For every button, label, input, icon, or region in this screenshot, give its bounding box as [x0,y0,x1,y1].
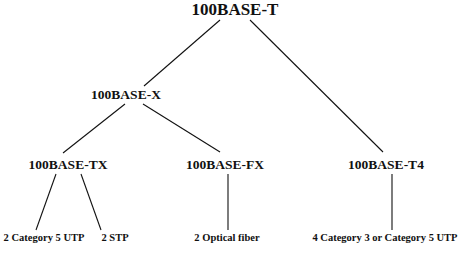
leaf-2-optical-fiber: 2 Optical fiber [194,232,259,243]
leaf-2-stp: 2 STP [101,232,128,243]
ethernet-standards-tree: 100BASE-T 100BASE-X 100BASE-TX 100BASE-F… [0,0,460,255]
edge-root-to-x [144,20,220,86]
node-100base-t4: 100BASE-T4 [348,157,424,173]
node-100base-tx: 100BASE-TX [29,157,108,173]
edge-tx-to-utp [36,174,56,230]
tree-connectors [0,0,460,255]
edge-root-to-t4 [250,20,383,152]
leaf-4-category-3-or-5-utp: 4 Category 3 or Category 5 UTP [312,232,457,243]
node-100base-t: 100BASE-T [192,0,279,20]
edge-x-to-fx [143,104,220,152]
node-100base-fx: 100BASE-FX [186,157,264,173]
edge-x-to-tx [63,104,125,153]
leaf-2-category-5-utp: 2 Category 5 UTP [4,232,85,243]
node-100base-x: 100BASE-X [91,87,161,103]
edge-tx-to-stp [81,174,101,230]
